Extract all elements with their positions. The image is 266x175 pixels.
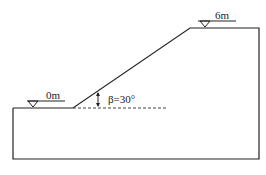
top-level-label: 6m [215, 9, 230, 21]
water-level-marker-left [27, 101, 65, 107]
angle-label: β=30° [108, 93, 135, 105]
left-level-label: 0m [46, 89, 61, 101]
slope-diagram: β=30° 0m 6m [0, 0, 266, 175]
water-level-marker-top [198, 21, 236, 27]
angle-arrow-icon [96, 92, 100, 107]
